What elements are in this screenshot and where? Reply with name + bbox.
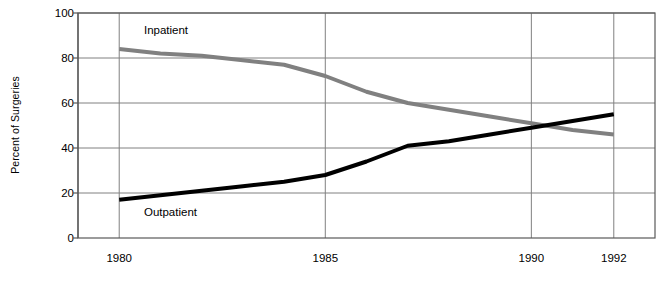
series-line-inpatient <box>119 49 614 135</box>
series-label-outpatient: Outpatient <box>144 206 197 218</box>
series-label-inpatient: Inpatient <box>144 24 188 36</box>
plot-area <box>0 0 667 282</box>
plot-frame <box>78 13 655 238</box>
chart-container: Percent of Surgeries 020406080100 198019… <box>0 0 667 282</box>
series-line-outpatient <box>119 114 614 200</box>
